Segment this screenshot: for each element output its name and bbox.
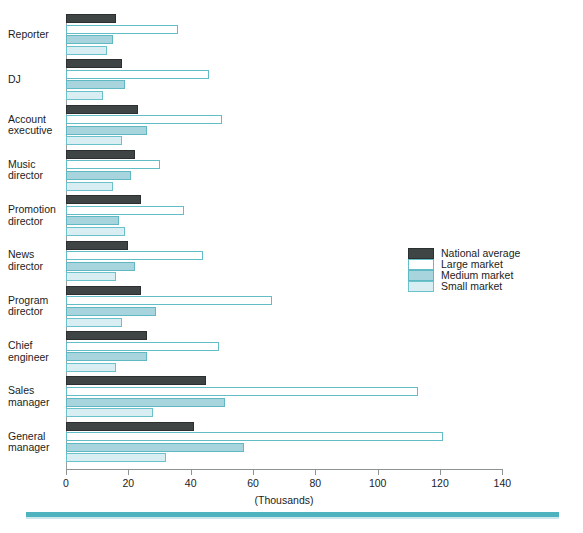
chart-legend: National averageLarge marketMedium marke…: [408, 248, 568, 292]
x-tick-label-60: 60: [247, 477, 259, 489]
legend-swatch-national: [408, 248, 434, 259]
bar-national-5: [66, 241, 128, 250]
category-label-4: Promotiondirector: [8, 204, 64, 227]
x-tick-label-100: 100: [369, 477, 387, 489]
category-label-9: Generalmanager: [8, 431, 64, 454]
bar-group: [66, 376, 503, 421]
x-tick-label-120: 120: [431, 477, 449, 489]
bar-group: [66, 14, 503, 59]
category-label-3: Musicdirector: [8, 159, 64, 182]
x-tick-label-80: 80: [310, 477, 322, 489]
category-label-5: Newsdirector: [8, 249, 64, 272]
bar-medium-5: [66, 262, 135, 271]
bar-national-2: [66, 105, 138, 114]
legend-swatch-large: [408, 259, 434, 270]
bar-national-9: [66, 422, 194, 431]
bar-small-0: [66, 46, 107, 55]
category-label-7: Chiefengineer: [8, 340, 64, 363]
bar-national-7: [66, 331, 147, 340]
x-tick-label-40: 40: [185, 477, 197, 489]
bar-large-7: [66, 342, 219, 351]
x-tick-20: [128, 469, 129, 475]
bar-group: [66, 59, 503, 104]
bar-large-2: [66, 115, 222, 124]
x-tick-120: [440, 469, 441, 475]
bar-small-4: [66, 227, 125, 236]
bar-small-7: [66, 363, 116, 372]
bar-medium-8: [66, 398, 225, 407]
category-label-line: manager: [8, 442, 64, 454]
x-tick-140: [502, 469, 503, 475]
category-label-line: engineer: [8, 352, 64, 364]
category-label-line: Chief: [8, 340, 64, 352]
legend-swatch-small: [408, 281, 434, 292]
category-label-8: Salesmanager: [8, 385, 64, 408]
bar-national-8: [66, 376, 206, 385]
category-label-line: director: [8, 170, 64, 182]
category-label-line: Reporter: [8, 29, 64, 41]
x-tick-100: [378, 469, 379, 475]
category-label-line: executive: [8, 125, 64, 137]
bar-national-3: [66, 150, 135, 159]
bar-group: [66, 422, 503, 467]
bar-national-6: [66, 286, 141, 295]
legend-item-small: Small market: [408, 281, 568, 292]
legend-label-small: Small market: [441, 280, 502, 292]
bar-medium-1: [66, 80, 125, 89]
bar-large-4: [66, 206, 184, 215]
x-tick-label-140: 140: [494, 477, 512, 489]
x-tick-label-20: 20: [122, 477, 134, 489]
bar-group: [66, 331, 503, 376]
category-label-line: director: [8, 216, 64, 228]
bar-small-3: [66, 182, 113, 191]
x-axis-line: [66, 469, 503, 470]
category-label-1: DJ: [8, 74, 64, 86]
bar-small-1: [66, 91, 103, 100]
bar-large-3: [66, 160, 160, 169]
category-label-line: manager: [8, 397, 64, 409]
bar-medium-9: [66, 443, 244, 452]
category-label-line: Promotion: [8, 204, 64, 216]
x-tick-label-0: 0: [63, 477, 69, 489]
category-label-6: Programdirector: [8, 295, 64, 318]
category-label-0: Reporter: [8, 29, 64, 41]
bar-small-6: [66, 318, 122, 327]
legend-swatch-medium: [408, 270, 434, 281]
bar-large-8: [66, 387, 418, 396]
bar-small-5: [66, 272, 116, 281]
x-tick-40: [191, 469, 192, 475]
bar-large-9: [66, 432, 443, 441]
plot-area: [66, 14, 503, 469]
bar-small-2: [66, 136, 122, 145]
bar-medium-6: [66, 307, 156, 316]
x-tick-80: [315, 469, 316, 475]
x-tick-0: [66, 469, 67, 475]
bar-group: [66, 286, 503, 331]
bar-small-8: [66, 408, 153, 417]
x-tick-60: [253, 469, 254, 475]
bar-group: [66, 150, 503, 195]
bar-medium-2: [66, 126, 147, 135]
category-label-line: director: [8, 306, 64, 318]
bar-large-1: [66, 70, 209, 79]
footer-rule-shadow: [26, 517, 559, 519]
bar-large-0: [66, 25, 178, 34]
bar-medium-7: [66, 352, 147, 361]
x-axis-title: (Thousands): [255, 494, 314, 506]
bar-national-0: [66, 14, 116, 23]
category-label-2: Accountexecutive: [8, 114, 64, 137]
bar-national-4: [66, 195, 141, 204]
bar-medium-4: [66, 216, 119, 225]
bar-small-9: [66, 453, 166, 462]
bar-medium-3: [66, 171, 131, 180]
bar-large-6: [66, 296, 272, 305]
horizontal-bar-chart: ReporterDJAccountexecutiveMusicdirectorP…: [0, 0, 583, 533]
bar-large-5: [66, 251, 203, 260]
category-label-line: director: [8, 261, 64, 273]
bar-group: [66, 105, 503, 150]
bar-national-1: [66, 59, 122, 68]
bar-medium-0: [66, 35, 113, 44]
category-label-line: DJ: [8, 74, 64, 86]
bar-group: [66, 195, 503, 240]
